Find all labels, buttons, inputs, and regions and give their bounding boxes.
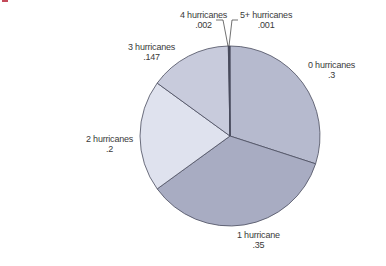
label-value: .147 bbox=[128, 52, 175, 62]
label-name: 1 hurricane bbox=[237, 230, 280, 240]
label-0-hurricanes: 0 hurricanes .3 bbox=[308, 60, 355, 80]
label-value: .3 bbox=[308, 70, 355, 80]
label-3-hurricanes: 3 hurricanes .147 bbox=[128, 42, 175, 62]
pie-chart bbox=[0, 0, 386, 266]
label-value: .001 bbox=[240, 20, 292, 30]
leader-line-5-hurricanes bbox=[229, 20, 238, 46]
label-value: .2 bbox=[86, 144, 133, 154]
pie-slice-5plus-hurricanes bbox=[229, 46, 230, 136]
label-value: .35 bbox=[237, 240, 280, 250]
label-name: 0 hurricanes bbox=[308, 60, 355, 70]
label-1-hurricane: 1 hurricane .35 bbox=[237, 230, 280, 250]
label-2-hurricanes: 2 hurricanes .2 bbox=[86, 134, 133, 154]
label-name: 5+ hurricanes bbox=[240, 10, 292, 20]
label-name: 2 hurricanes bbox=[86, 134, 133, 144]
label-value: .002 bbox=[180, 20, 227, 30]
label-name: 4 hurricanes bbox=[180, 10, 227, 20]
label-4-hurricanes: 4 hurricanes .002 bbox=[180, 10, 227, 30]
label-name: 3 hurricanes bbox=[128, 42, 175, 52]
label-5plus-hurricanes: 5+ hurricanes .001 bbox=[240, 10, 292, 30]
pie-slices bbox=[140, 46, 320, 226]
